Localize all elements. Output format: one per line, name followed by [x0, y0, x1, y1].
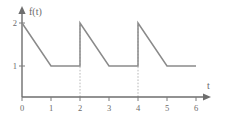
- x-tick-label-0: 0: [20, 103, 24, 113]
- x-tick-label-1: 1: [49, 103, 53, 113]
- x-tick-label-5: 5: [165, 103, 169, 113]
- x-axis-tick-labels: 0123456: [20, 103, 198, 113]
- y-tick-label-2: 2: [13, 18, 17, 28]
- y-axis: [18, 6, 25, 97]
- signal-trace: [22, 23, 196, 66]
- y-axis-title: f(t): [29, 6, 42, 18]
- x-tick-label-6: 6: [194, 103, 198, 113]
- y-tick-label-1: 1: [13, 61, 17, 71]
- x-axis-title: t: [207, 80, 210, 91]
- y-axis-tick-labels: 12: [13, 18, 17, 71]
- dashed-reference-lines: [80, 23, 138, 97]
- waveform-plot: 0123456 12 f(t) t: [0, 0, 225, 124]
- x-tick-label-3: 3: [107, 103, 111, 113]
- x-tick-label-2: 2: [78, 103, 82, 113]
- x-axis: [22, 93, 211, 100]
- chart-figure: 0123456 12 f(t) t: [0, 0, 225, 124]
- x-tick-label-4: 4: [136, 103, 141, 113]
